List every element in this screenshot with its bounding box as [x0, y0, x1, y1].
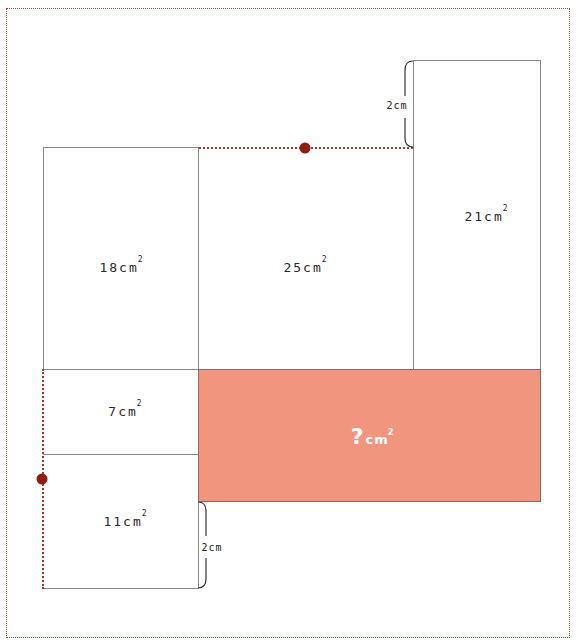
region-label-11: 11cm2 — [103, 513, 146, 528]
measure-label-top: 2cm — [386, 99, 407, 112]
region-label-7: 7cm2 — [108, 403, 141, 418]
brace-icon — [0, 0, 580, 643]
region-label-21: 21cm2 — [464, 208, 507, 223]
region-label-unknown: ?cm2 — [351, 424, 394, 449]
region-label-18: 18cm2 — [99, 259, 142, 274]
measure-label-bottom: 2cm — [201, 541, 222, 554]
region-label-25: 25cm2 — [283, 259, 326, 274]
